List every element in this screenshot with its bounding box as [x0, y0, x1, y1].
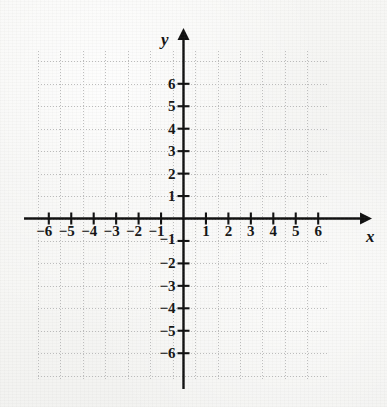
- axes-layer: [0, 0, 387, 407]
- y-tick-label: 5: [150, 99, 176, 114]
- y-tick-label: 6: [150, 77, 176, 92]
- x-axis-arrowhead: [360, 213, 372, 225]
- y-tick-label: −5: [150, 324, 176, 339]
- x-tick-label: −2: [122, 224, 146, 239]
- y-tick-label: −3: [150, 279, 176, 294]
- y-axis-arrowhead: [178, 28, 190, 40]
- x-axis-label: x: [366, 228, 375, 245]
- x-tick-label: −3: [100, 224, 124, 239]
- x-tick-label: −6: [32, 224, 56, 239]
- y-tick-label: −6: [150, 346, 176, 361]
- x-tick-label: 1: [194, 224, 218, 239]
- graph-paper-background: −6−5−4−3−2−1123456 654321−1−2−3−4−5−6 x …: [0, 0, 387, 407]
- x-tick-label: −4: [77, 224, 101, 239]
- y-axis-label: y: [161, 31, 169, 48]
- y-tick-label: −2: [150, 256, 176, 271]
- x-tick-label: 2: [216, 224, 240, 239]
- x-tick-label: −5: [55, 224, 79, 239]
- y-tick-label: −1: [150, 232, 176, 247]
- x-tick-label: 3: [239, 224, 263, 239]
- y-tick-label: 3: [150, 144, 176, 159]
- y-tick-label: 4: [150, 122, 176, 137]
- x-tick-label: 4: [261, 224, 285, 239]
- y-tick-label: −4: [150, 301, 176, 316]
- y-axis: [178, 28, 190, 389]
- y-tick-label: 2: [150, 167, 176, 182]
- y-tick-label: 1: [150, 189, 176, 204]
- x-tick-label: 6: [306, 224, 330, 239]
- x-tick-label: 5: [284, 224, 308, 239]
